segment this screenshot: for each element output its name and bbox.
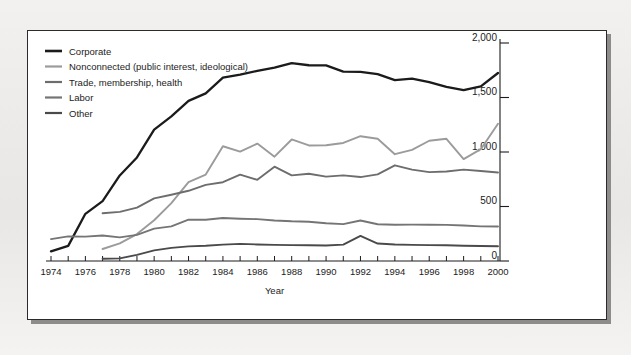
x-axis-tick-label: 1982	[178, 266, 199, 277]
x-axis-tick-label: 1994	[384, 266, 405, 277]
y-axis-tick-label: 0	[491, 250, 497, 261]
series-line	[51, 218, 498, 239]
x-axis-tick-label: 1980	[144, 266, 165, 277]
x-axis-title: Year	[265, 285, 284, 296]
chart-panel: 05001,0001,5002,000Number of PACs1974197…	[27, 30, 607, 320]
x-axis-tick-label: 1986	[247, 266, 268, 277]
x-axis-tick-label: 1996	[419, 266, 440, 277]
y-axis-tick-label: 2,000	[472, 32, 497, 43]
x-axis-tick-label: 2000	[487, 266, 508, 277]
x-axis-tick-label: 1990	[316, 266, 337, 277]
x-axis-tick-label: 1992	[350, 266, 371, 277]
series-line	[103, 165, 498, 213]
x-axis-tick-label: 1974	[40, 266, 61, 277]
figure-root: 05001,0001,5002,000Number of PACs1974197…	[0, 0, 631, 355]
legend-label: Corporate	[69, 46, 111, 57]
x-axis-tick-label: 1978	[109, 266, 130, 277]
x-axis-tick-label: 1984	[212, 266, 233, 277]
legend-label: Other	[69, 108, 93, 119]
x-axis-tick-label: 1998	[453, 266, 474, 277]
series-line	[103, 124, 498, 249]
x-axis-tick-label: 1988	[281, 266, 302, 277]
x-axis-tick-label: 1976	[75, 266, 96, 277]
series-line	[103, 236, 498, 259]
legend-label: Nonconnected (public interest, ideologic…	[69, 61, 248, 72]
y-axis-tick-label: 500	[480, 195, 497, 206]
legend-label: Labor	[69, 92, 93, 103]
legend-label: Trade, membership, health	[69, 77, 182, 88]
line-chart: 05001,0001,5002,000Number of PACs1974197…	[28, 31, 606, 319]
series-group	[51, 63, 498, 259]
